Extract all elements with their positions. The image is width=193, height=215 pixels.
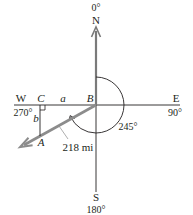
- west-letter-label: W: [16, 92, 27, 104]
- side-a-label: a: [60, 92, 66, 104]
- side-b-label: b: [33, 112, 39, 124]
- right-angle-marker: [40, 105, 45, 110]
- south-degrees-label: 180°: [87, 204, 106, 215]
- point-b-label: B: [87, 92, 94, 104]
- north-letter-label: N: [92, 14, 100, 26]
- east-degrees-label: 90°: [168, 107, 182, 118]
- south-letter-label: S: [93, 191, 99, 203]
- bearing-label: 245°: [119, 121, 138, 132]
- compass-bearing-diagram: 0° N E 90° S 180° W 270° C a B b A 218 m…: [0, 0, 193, 215]
- point-c-label: C: [37, 92, 45, 104]
- west-degrees-label: 270°: [14, 107, 33, 118]
- north-degrees-label: 0°: [92, 2, 101, 13]
- east-letter-label: E: [173, 92, 180, 104]
- distance-leader-line: [59, 126, 68, 139]
- point-a-label: A: [37, 136, 45, 148]
- path-arrow-shaft: [24, 105, 96, 145]
- distance-label: 218 mi: [63, 141, 94, 153]
